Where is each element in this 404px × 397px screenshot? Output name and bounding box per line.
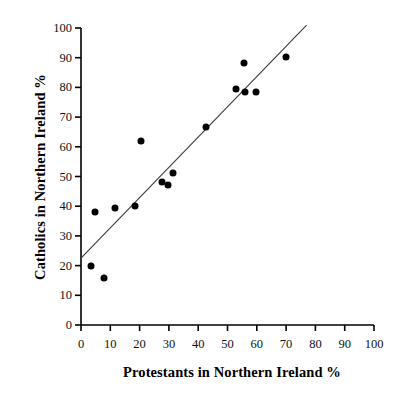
y-axis-tick-label: 70: [40, 110, 72, 125]
data-point: [282, 53, 289, 60]
data-point: [100, 274, 107, 281]
x-axis-tick-label: 100: [365, 337, 384, 352]
plot-area: 0102030405060708090100010203040506070809…: [0, 0, 404, 397]
y-axis-tick-label: 50: [40, 169, 72, 184]
data-point: [242, 88, 249, 95]
x-axis-tick-label: 20: [133, 337, 146, 352]
data-point: [232, 86, 239, 93]
x-axis-tick-label: 10: [104, 337, 117, 352]
y-axis-tick-label: 0: [40, 318, 72, 333]
y-axis-tick-label: 60: [40, 139, 72, 154]
data-point: [132, 202, 139, 209]
regression-line: [81, 25, 307, 258]
x-axis-tick-label: 60: [251, 337, 264, 352]
data-point: [111, 205, 118, 212]
y-axis-tick-label: 20: [40, 258, 72, 273]
x-axis-tick-label: 70: [280, 337, 293, 352]
data-point: [165, 181, 172, 188]
scatter-plot-figure: Catholics in Northern Ireland % Protesta…: [0, 0, 404, 397]
x-axis-tick-label: 50: [221, 337, 234, 352]
x-axis-tick-label: 80: [309, 337, 322, 352]
y-axis-tick-label: 90: [40, 50, 72, 65]
y-axis-tick-label: 80: [40, 80, 72, 95]
data-point: [138, 137, 145, 144]
data-point: [240, 60, 247, 67]
y-axis-tick-label: 10: [40, 288, 72, 303]
data-point: [92, 208, 99, 215]
y-axis-tick-label: 100: [40, 21, 72, 36]
data-point: [87, 262, 94, 269]
data-point: [170, 169, 177, 176]
x-axis-tick-label: 90: [338, 337, 351, 352]
data-point: [252, 88, 259, 95]
data-point: [202, 124, 209, 131]
x-axis-tick-label: 30: [163, 337, 176, 352]
x-axis-tick-label: 0: [78, 337, 84, 352]
y-axis-tick-label: 40: [40, 199, 72, 214]
y-axis-tick-label: 30: [40, 228, 72, 243]
x-axis-tick-label: 40: [192, 337, 205, 352]
